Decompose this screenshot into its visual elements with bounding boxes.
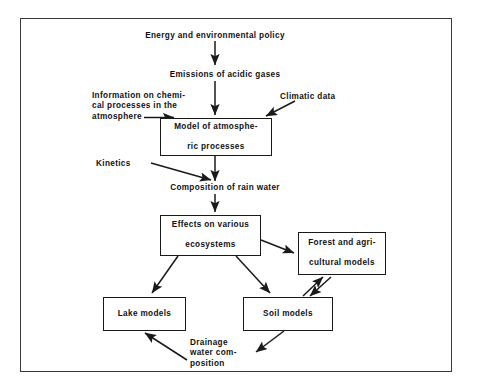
label-line-1: Information on chemi- <box>92 91 202 101</box>
label-line-3: atmosphere <box>92 112 202 122</box>
label-line-1: Composition of rain water <box>152 183 298 193</box>
node-soil-models[interactable]: Soil models <box>243 297 333 331</box>
node-model-of-atmospheric-processes[interactable]: Model of atmosphe- ric processes <box>160 118 272 156</box>
label-line-1: Kinetics <box>96 159 146 169</box>
node-lake-models[interactable]: Lake models <box>103 297 186 331</box>
node-line-2: ric processes <box>187 143 244 152</box>
node-effects-on-various-ecosystems[interactable]: Effects on various ecosystems <box>160 215 261 256</box>
node-forest-and-agricultural-models[interactable]: Forest and agri- cultural models <box>298 232 386 275</box>
node-line-1: Model of atmosphe- <box>174 123 258 132</box>
label-line-1: Emissions of acidic gases <box>157 70 293 80</box>
label-information-on-chemical-processes: Information on chemi- cal processes in t… <box>92 91 202 122</box>
label-climatic-data: Climatic data <box>280 92 360 102</box>
label-line-1: Climatic data <box>280 92 360 102</box>
label-line-2: cal processes in the <box>92 101 202 111</box>
node-line-2: cultural models <box>309 259 375 268</box>
label-energy-and-environmental-policy: Energy and environmental policy <box>131 31 299 41</box>
label-kinetics: Kinetics <box>96 159 146 169</box>
diagram-canvas: Model of atmosphe- ric processes Effects… <box>0 0 478 392</box>
node-line-1: Forest and agri- <box>308 239 375 248</box>
label-line-1: Drainage <box>190 338 252 348</box>
label-line-2: water com- <box>190 348 252 358</box>
label-line-1: Energy and environmental policy <box>131 31 299 41</box>
label-drainage-water-composition: Drainage water com- position <box>190 338 252 369</box>
node-line-1: Effects on various <box>172 221 249 230</box>
label-line-3: position <box>190 359 252 369</box>
node-line-1: Lake models <box>118 310 171 319</box>
node-line-2: ecosystems <box>185 241 235 250</box>
node-line-1: Soil models <box>263 310 313 319</box>
label-composition-of-rain-water: Composition of rain water <box>152 183 298 193</box>
label-emissions-of-acidic-gases: Emissions of acidic gases <box>157 70 293 80</box>
